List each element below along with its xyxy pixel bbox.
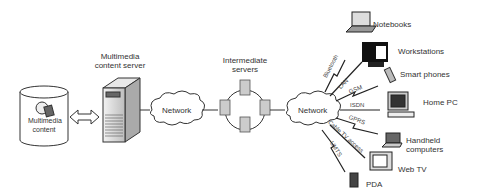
link-isdn: ISDN bbox=[350, 102, 364, 108]
network-left-label: Network bbox=[162, 106, 191, 115]
bidirectional-arrow-icon bbox=[70, 110, 99, 124]
device-home-pc: Home PC bbox=[423, 98, 458, 107]
server-tower-icon bbox=[103, 78, 140, 142]
device-handheld-line2: computers bbox=[406, 145, 443, 154]
source-label-line2: content bbox=[28, 125, 60, 134]
source-label-line1: Multimedia bbox=[28, 116, 60, 125]
workstation-icon bbox=[362, 42, 388, 67]
web-tv-icon bbox=[370, 152, 392, 170]
device-smartphones: Smart phones bbox=[400, 70, 450, 79]
source-label: Multimedia content bbox=[28, 116, 60, 134]
pda-icon bbox=[350, 173, 358, 187]
home-pc-icon bbox=[388, 92, 414, 117]
intermediate-label-line2: servers bbox=[215, 65, 275, 74]
device-pda: PDA bbox=[366, 180, 382, 189]
multimedia-distribution-diagram: Multimedia content Multimedia content se… bbox=[0, 0, 477, 195]
notebook-icon bbox=[346, 12, 376, 32]
server-label-line1: Multimedia bbox=[90, 52, 150, 61]
device-handheld: Handheld computers bbox=[406, 136, 443, 154]
device-workstations: Workstations bbox=[398, 47, 444, 56]
device-notebooks: Notebooks bbox=[373, 20, 411, 29]
smartphone-icon bbox=[384, 67, 395, 82]
device-handheld-line1: Handheld bbox=[406, 136, 443, 145]
server-label-line2: content server bbox=[90, 61, 150, 70]
handheld-computer-icon bbox=[382, 133, 402, 147]
device-web-tv: Web TV bbox=[398, 165, 427, 174]
server-label: Multimedia content server bbox=[90, 52, 150, 70]
intermediate-label: Intermediate servers bbox=[215, 56, 275, 74]
intermediate-label-line1: Intermediate bbox=[215, 56, 275, 65]
network-right-label: Network bbox=[298, 106, 327, 115]
intermediate-servers-icons bbox=[220, 80, 270, 132]
